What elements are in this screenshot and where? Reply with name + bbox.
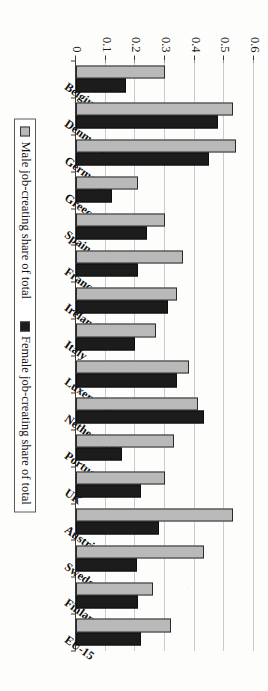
- x-tick-mark: [71, 60, 76, 61]
- legend-swatch-female-icon: [21, 321, 31, 331]
- legend-item-male: Male job-creating share of total: [18, 126, 33, 299]
- y-tick-label: 0: [69, 0, 84, 52]
- bar-male: [76, 102, 233, 115]
- bar-female: [76, 189, 112, 202]
- bar-male: [76, 434, 174, 447]
- bar-female: [76, 595, 138, 608]
- rotated-chart-wrapper: 00.10.20.30.40.50.6 BelgiumDenmarkGerman…: [0, 0, 268, 691]
- y-tick-label: 0.4: [187, 0, 202, 52]
- bar-male: [76, 65, 165, 78]
- bar-male: [76, 582, 153, 595]
- bar-male: [76, 139, 236, 152]
- y-tick-label: 0.5: [217, 0, 232, 52]
- bar-chart: 00.10.20.30.40.50.6 BelgiumDenmarkGerman…: [0, 0, 268, 691]
- bar-male: [76, 287, 177, 300]
- bar-female: [76, 484, 141, 497]
- bar-male: [76, 397, 198, 410]
- y-tick-label: 0.2: [128, 0, 143, 52]
- chart-legend: Male job-creating share of total Female …: [14, 118, 36, 512]
- bar-female: [76, 152, 210, 165]
- y-tick-mark: [105, 55, 106, 60]
- bar-male: [76, 471, 165, 484]
- legend-swatch-male-icon: [21, 126, 31, 136]
- bar-female: [76, 263, 138, 276]
- legend-item-female: Female job-creating share of total: [18, 321, 33, 505]
- bar-female: [76, 337, 135, 350]
- bar-female: [76, 300, 168, 313]
- bar-male: [76, 618, 171, 631]
- bar-female: [76, 115, 218, 128]
- y-tick-label: 0.1: [98, 0, 113, 52]
- bar-female: [76, 447, 122, 460]
- y-tick-label: 0.3: [158, 0, 173, 52]
- bar-female: [76, 78, 126, 91]
- bar-female: [76, 558, 137, 571]
- bar-female: [76, 521, 159, 534]
- y-tick-mark: [253, 55, 254, 60]
- y-tick-mark: [194, 55, 195, 60]
- bar-female: [76, 373, 177, 386]
- bar-female: [76, 410, 204, 423]
- bar-male: [76, 176, 138, 189]
- bar-male: [76, 545, 204, 558]
- bar-male: [76, 250, 183, 263]
- y-tick-mark: [164, 55, 165, 60]
- legend-label-female: Female job-creating share of total: [18, 336, 33, 505]
- bar-male: [76, 508, 233, 521]
- bar-female: [76, 632, 141, 645]
- y-tick-label: 0.6: [247, 0, 262, 52]
- bar-male: [76, 213, 165, 226]
- bar-male: [76, 360, 189, 373]
- y-tick-mark: [75, 55, 76, 60]
- legend-label-male: Male job-creating share of total: [18, 141, 33, 299]
- bar-female: [76, 226, 147, 239]
- y-tick-mark: [223, 55, 224, 60]
- bar-male: [76, 323, 156, 336]
- gridline: [252, 60, 254, 650]
- y-tick-mark: [134, 55, 135, 60]
